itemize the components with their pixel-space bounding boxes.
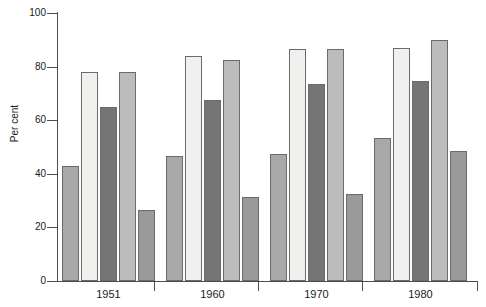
x-axis-tick-label: 1980 bbox=[354, 288, 486, 300]
bar bbox=[242, 197, 259, 281]
bar bbox=[185, 56, 202, 281]
y-axis-tick bbox=[47, 227, 57, 228]
bar bbox=[346, 194, 363, 281]
bar bbox=[412, 81, 429, 281]
bar-chart: 020406080100 Per cent 1951196019701980 bbox=[0, 0, 486, 307]
y-axis-tick-label: 40 bbox=[4, 169, 46, 179]
y-axis-tick bbox=[47, 120, 57, 121]
bar bbox=[374, 138, 391, 281]
bar bbox=[166, 156, 183, 281]
y-axis-line bbox=[57, 12, 58, 282]
bar bbox=[431, 40, 448, 281]
y-axis-tick-label: 100 bbox=[4, 8, 46, 18]
x-axis-group-separator bbox=[362, 282, 363, 291]
y-axis-tick-label: 80 bbox=[4, 62, 46, 72]
x-axis-line bbox=[57, 281, 478, 282]
y-axis-title: Per cent bbox=[9, 84, 20, 164]
x-axis-group-separator bbox=[154, 282, 155, 291]
bar bbox=[100, 107, 117, 281]
x-axis-group-separator bbox=[477, 282, 478, 291]
bar bbox=[204, 100, 221, 281]
bar bbox=[327, 49, 344, 281]
bar bbox=[62, 166, 79, 281]
bar bbox=[393, 48, 410, 281]
y-axis-tick-label: 0 bbox=[4, 276, 46, 286]
x-axis-group-separator bbox=[258, 282, 259, 291]
bar bbox=[138, 210, 155, 281]
bar bbox=[81, 72, 98, 281]
bar bbox=[270, 154, 287, 281]
bar bbox=[308, 84, 325, 281]
y-axis-tick bbox=[47, 13, 57, 14]
bar bbox=[450, 151, 467, 281]
y-axis-tick bbox=[47, 174, 57, 175]
y-axis-labels: 020406080100 bbox=[0, 0, 46, 307]
bar bbox=[223, 60, 240, 281]
bar bbox=[289, 49, 306, 281]
y-axis-tick bbox=[47, 67, 57, 68]
y-axis-tick bbox=[47, 281, 57, 282]
bar bbox=[119, 72, 136, 281]
y-axis-tick-label: 20 bbox=[4, 222, 46, 232]
